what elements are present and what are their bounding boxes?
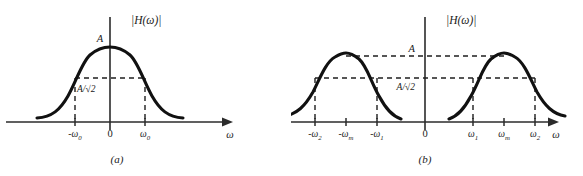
panel-b-amplitude-label: A — [408, 43, 416, 54]
panel-b-tick-sub-pos-w1: 1 — [475, 134, 478, 141]
panel-b-tick-text-neg-w1: -ω — [370, 129, 380, 139]
panel-a-x-axis-label: ω — [226, 129, 233, 140]
panel-b-x-axis-label: ω — [552, 129, 559, 140]
panel-a: |H(ω)| A A/√2 -ω0 0 ω0 ω (a) — [0, 0, 291, 176]
panel-a-amplitude-label: A — [96, 33, 104, 44]
panel-a-origin-label: 0 — [107, 128, 112, 139]
panel-b-tick-sub-neg-w1: 1 — [380, 134, 383, 141]
panel-b-origin-label: 0 — [422, 128, 427, 139]
figure-container: |H(ω)| A A/√2 -ω0 0 ω0 ω (a) — [0, 0, 583, 176]
panel-a-caption: (a) — [111, 153, 124, 166]
svg-text:ωm: ωm — [498, 129, 510, 141]
panel-b-tick-label-neg-w2: -ω2 — [308, 129, 322, 141]
panel-a-tick-sub-pos: 0 — [147, 134, 151, 141]
svg-text:ω1: ω1 — [468, 129, 478, 141]
svg-text:ω0: ω0 — [140, 129, 151, 141]
panel-b-tick-text-neg-wm: -ω — [339, 129, 349, 139]
panel-a-half-power-label: A/√2 — [76, 84, 96, 94]
svg-text:-ω2: -ω2 — [308, 129, 322, 141]
panel-b-y-axis-label: |H(ω)| — [446, 14, 476, 27]
panel-a-tick-text-neg: -ω — [68, 129, 78, 139]
panel-b-tick-label-neg-w1: -ω1 — [370, 129, 383, 141]
panel-b-caption: (b) — [419, 153, 432, 166]
panel-a-tick-label-pos-w0: ω0 — [140, 129, 151, 141]
panel-b-tick-label-pos-w2: ω2 — [530, 129, 541, 141]
svg-text:-ω0: -ω0 — [68, 129, 82, 141]
panel-b-tick-text-neg-w2: -ω — [308, 129, 318, 139]
svg-text:-ωm: -ωm — [339, 129, 354, 141]
panel-b-tick-sub-neg-w2: 2 — [318, 134, 322, 141]
panel-b-tick-sub-pos-w2: 2 — [537, 134, 541, 141]
panel-b-tick-sub-neg-wm: m — [348, 134, 353, 141]
panel-b-tick-label-pos-w1: ω1 — [468, 129, 478, 141]
panel-b-tick-label-neg-wm: -ωm — [339, 129, 354, 141]
svg-text:ω2: ω2 — [530, 129, 541, 141]
panel-b-half-power-label: A/√2 — [396, 82, 416, 92]
panel-b-tick-label-pos-wm: ωm — [498, 129, 510, 141]
panel-b-response-curve-left — [291, 53, 401, 119]
panel-a-tick-label-neg-w0: -ω0 — [68, 129, 82, 141]
panel-b-response-curve-right — [449, 53, 565, 119]
panel-a-y-axis-label: |H(ω)| — [131, 14, 161, 27]
panel-b: |H(ω)| A A/√2 -ω2 -ωm -ω1 0 ω1 ωm — [291, 0, 583, 176]
panel-a-tick-sub-neg: 0 — [78, 134, 82, 141]
panel-b-tick-sub-pos-wm: m — [505, 134, 510, 141]
svg-text:-ω1: -ω1 — [370, 129, 383, 141]
